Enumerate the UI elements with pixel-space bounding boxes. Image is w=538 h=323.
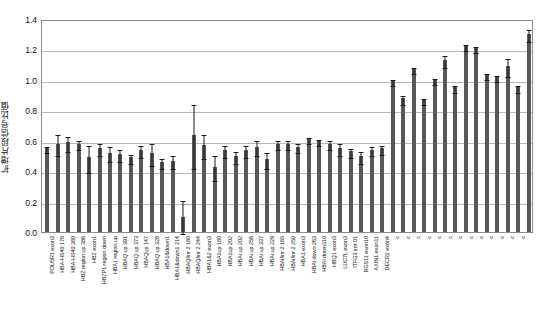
bar[interactable] [380,148,384,232]
bar[interactable] [108,153,112,232]
bar-group[interactable] [335,21,345,232]
error-bar-cap-bottom [495,82,500,83]
bar[interactable] [45,148,49,232]
bar-group[interactable] [346,21,356,232]
bar[interactable] [464,46,468,232]
bar-group[interactable] [272,21,282,232]
bar-group[interactable] [524,21,534,232]
bar[interactable] [129,157,133,232]
bar[interactable] [474,48,478,232]
bar[interactable] [495,77,499,232]
bar[interactable] [244,150,248,232]
bar[interactable] [485,75,489,232]
bar-group[interactable] [367,21,377,232]
bar-group[interactable] [115,21,125,232]
bar[interactable] [234,156,238,232]
bar[interactable] [433,80,437,232]
bar-group[interactable] [189,21,199,232]
bar[interactable] [307,139,311,232]
bar[interactable] [296,147,300,232]
error-bar-cap-top [411,68,416,69]
bar[interactable] [349,151,353,232]
bar-group[interactable] [471,21,481,232]
error-bar-line [172,156,173,168]
bar-group[interactable] [513,21,523,232]
error-bar-cap-bottom [526,42,531,43]
bar-group[interactable] [482,21,492,232]
bar[interactable] [401,98,405,232]
bar-group[interactable] [136,21,146,232]
bar[interactable] [66,142,70,232]
error-bar-line [403,96,404,105]
bar-group[interactable] [325,21,335,232]
error-bar-line [267,153,268,168]
bar-group[interactable] [450,21,460,232]
bar-group[interactable] [461,21,471,232]
bar[interactable] [265,159,269,232]
bar-group[interactable] [73,21,83,232]
bar-group[interactable] [356,21,366,232]
x-tick-label: HBA1 region up [112,236,118,274]
bar-group[interactable] [440,21,450,232]
bar[interactable] [171,161,175,233]
bar-group[interactable] [377,21,387,232]
bar-group[interactable] [492,21,502,232]
bar-group[interactable] [42,21,52,232]
bar-group[interactable] [63,21,73,232]
bar-group[interactable] [503,21,513,232]
bar[interactable] [506,66,510,232]
bar[interactable] [516,87,520,232]
bar-group[interactable] [283,21,293,232]
bar-group[interactable] [251,21,261,232]
bar[interactable] [317,141,321,232]
bar[interactable] [98,148,102,232]
bar-group[interactable] [105,21,115,232]
bar-group[interactable] [147,21,157,232]
bar-group[interactable] [220,21,230,232]
bar[interactable] [160,162,164,232]
bar[interactable] [77,144,81,232]
bar[interactable] [453,87,457,232]
bar[interactable] [391,81,395,232]
bar[interactable] [223,150,227,232]
bar-group[interactable] [230,21,240,232]
bar-group[interactable] [241,21,251,232]
error-bar-cap-bottom [139,158,144,159]
bar[interactable] [118,154,122,232]
bar-group[interactable] [387,21,397,232]
bar-group[interactable] [293,21,303,232]
bar-group[interactable] [398,21,408,232]
bar[interactable] [276,144,280,232]
error-bar-cap-top [338,144,343,145]
bar-group[interactable] [199,21,209,232]
bar-group[interactable] [314,21,324,232]
bar[interactable] [139,150,143,232]
bar-group[interactable] [126,21,136,232]
bar[interactable] [286,144,290,232]
bar-group[interactable] [408,21,418,232]
bar[interactable] [328,144,332,232]
bar-group[interactable] [429,21,439,232]
bar[interactable] [370,150,374,232]
bar[interactable] [443,60,447,232]
bar[interactable] [255,147,259,232]
bar-group[interactable] [178,21,188,232]
error-bar-cap-top [149,144,154,145]
bar[interactable] [338,148,342,232]
bar-group[interactable] [168,21,178,232]
bar-group[interactable] [419,21,429,232]
bar[interactable] [422,100,426,232]
bar-group[interactable] [262,21,272,232]
bar[interactable] [412,69,416,232]
bar[interactable] [527,34,531,232]
bar[interactable] [359,156,363,232]
bar-group[interactable] [84,21,94,232]
bar-group[interactable] [94,21,104,232]
bar-group[interactable] [209,21,219,232]
bar-group[interactable] [157,21,167,232]
x-tick-label: c [499,236,505,239]
error-bar-cap-bottom [443,68,448,69]
x-tick-label: HBAQ/inr 2 244 [195,236,201,274]
bar-group[interactable] [52,21,62,232]
bar-group[interactable] [304,21,314,232]
